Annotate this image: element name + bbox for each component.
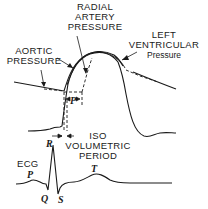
left-ventricular-label: LEFT VENTRICULAR Pressure bbox=[128, 30, 200, 60]
iso-volumetric-label: ISO VOLUMETRIC PERIOD bbox=[58, 131, 138, 161]
ecg-s-wave-label: S bbox=[58, 194, 64, 205]
p-interval-label: P bbox=[70, 95, 76, 106]
ecg-label: ECG bbox=[17, 159, 39, 169]
ecg-t-wave-label: T bbox=[91, 163, 97, 174]
radial-arrow bbox=[77, 36, 86, 73]
aortic-pressure-label: AORTIC PRESSURE bbox=[4, 46, 64, 66]
ecg-r-wave-label: R bbox=[46, 138, 53, 149]
ecg-q-wave-label: Q bbox=[41, 193, 48, 204]
cardiac-pressure-ecg-diagram: RADIAL ARTERY PRESSURE AORTIC PRESSURE L… bbox=[0, 0, 208, 209]
ecg-p-wave-label: P bbox=[27, 169, 33, 180]
aortic-pressure-curve bbox=[14, 82, 64, 91]
radial-artery-label: RADIAL ARTERY PRESSURE bbox=[55, 2, 135, 32]
